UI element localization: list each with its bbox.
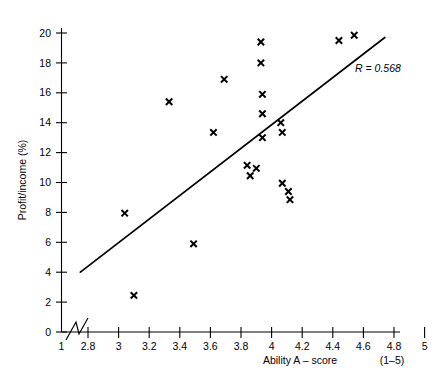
data-point <box>351 32 357 38</box>
regression-line <box>80 37 384 272</box>
data-point <box>190 241 196 247</box>
data-point <box>221 76 227 82</box>
data-point <box>210 129 216 135</box>
x-tick-label: 3 <box>116 340 122 352</box>
y-tick-label: 18 <box>39 57 51 69</box>
y-tick-label: 16 <box>39 86 51 98</box>
x-axis-range-label: (1–5) <box>380 354 405 366</box>
data-point <box>278 120 284 126</box>
x-tick-label: 3.6 <box>203 340 218 352</box>
x-tick-label: 3.8 <box>234 340 249 352</box>
data-point <box>279 129 285 135</box>
data-point <box>253 165 259 171</box>
data-point <box>336 37 342 43</box>
y-tick-label: 0 <box>45 326 51 338</box>
x-tick-label: 4.4 <box>325 340 340 352</box>
x-tick-label: 5 <box>422 340 428 352</box>
y-axis-title: Profit/income (%) <box>16 140 28 221</box>
y-tick-label: 8 <box>45 206 51 218</box>
axis-break-icon <box>66 318 88 340</box>
data-point <box>259 91 265 97</box>
x-axis-title: Ability A – score <box>263 354 337 366</box>
y-tick-label: 2 <box>45 296 51 308</box>
x-tick-label: 4 <box>269 340 275 352</box>
data-point <box>279 180 285 186</box>
data-point <box>122 210 128 216</box>
y-tick-label: 4 <box>45 266 51 278</box>
data-point <box>285 188 291 194</box>
x-tick-label: 2.8 <box>81 340 96 352</box>
x-tick-label: 4.6 <box>356 340 371 352</box>
y-tick-label: 12 <box>39 146 51 158</box>
data-point <box>131 292 137 298</box>
data-point-group <box>122 32 358 299</box>
scatter-plot-figure: 02468101214161820 12.833.23.43.63.844.24… <box>0 0 437 382</box>
data-point <box>259 134 265 140</box>
data-point <box>258 39 264 45</box>
chart-canvas: 02468101214161820 12.833.23.43.63.844.24… <box>0 0 437 382</box>
y-tick-group: 02468101214161820 <box>39 27 67 338</box>
data-point <box>244 162 250 168</box>
y-tick-label: 20 <box>39 27 51 39</box>
x-tick-label: 3.2 <box>142 340 157 352</box>
data-point <box>258 60 264 66</box>
y-tick-label: 14 <box>39 116 51 128</box>
data-point <box>166 99 172 105</box>
data-point <box>259 111 265 117</box>
x-tick-label: 4.8 <box>387 340 402 352</box>
data-point <box>247 173 253 179</box>
x-tick-label: 4.2 <box>295 340 310 352</box>
x-tick-group: 12.833.23.43.63.844.24.44.64.85 <box>59 327 428 352</box>
x-tick-label: 1 <box>59 340 65 352</box>
data-point <box>287 196 293 202</box>
correlation-label: R = 0.568 <box>355 62 401 74</box>
y-tick-label: 6 <box>45 236 51 248</box>
y-tick-label: 10 <box>39 176 51 188</box>
x-tick-label: 3.4 <box>172 340 187 352</box>
